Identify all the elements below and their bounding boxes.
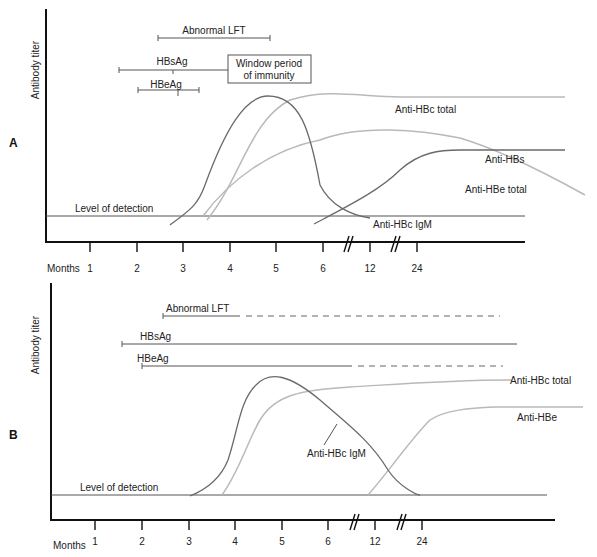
panel-a-y-axis-label: Antibody titer (30, 40, 41, 99)
panel-a-label: A (9, 136, 18, 150)
svg-text:Abnormal LFT: Abnormal LFT (182, 25, 245, 36)
panel-a-curve-labels: Anti-HBc total Anti-HBs Anti-HBe total A… (373, 104, 527, 230)
svg-text:1: 1 (87, 263, 93, 274)
panel-a-x-axis-label: Months (47, 263, 80, 274)
panel-b-anti-hbc-total-curve (222, 380, 512, 495)
svg-text:5: 5 (273, 263, 279, 274)
svg-text:5: 5 (279, 536, 285, 547)
svg-text:HBeAg: HBeAg (150, 79, 182, 90)
svg-text:Anti-HBe total: Anti-HBe total (465, 184, 527, 195)
svg-text:6: 6 (320, 263, 326, 274)
panel-b-hbeag-bar: HBeAg (137, 353, 503, 369)
panel-b-x-ticks (95, 514, 422, 530)
hbv-serology-diagram: A Antibody titer Months 1 2 3 4 5 (0, 0, 597, 557)
svg-text:2: 2 (134, 263, 140, 274)
panel-a: A Antibody titer Months 1 2 3 4 5 (9, 9, 585, 274)
svg-text:of immunity: of immunity (243, 70, 294, 81)
panel-b-y-axis-label: Antibody titer (30, 315, 41, 374)
panel-b-x-axis-label: Months (53, 540, 86, 551)
svg-text:HBeAg: HBeAg (137, 353, 169, 364)
svg-text:12: 12 (369, 536, 381, 547)
svg-text:4: 4 (227, 263, 233, 274)
svg-text:6: 6 (325, 536, 331, 547)
svg-text:Anti-HBc total: Anti-HBc total (510, 375, 571, 386)
panel-a-abnormal-lft-bar: Abnormal LFT (158, 25, 270, 41)
panel-b-igm-leader-line (324, 424, 337, 445)
svg-text:Anti-HBc IgM: Anti-HBc IgM (307, 448, 366, 459)
svg-text:Anti-HBc IgM: Anti-HBc IgM (373, 219, 432, 230)
svg-text:4: 4 (232, 536, 238, 547)
svg-text:3: 3 (180, 263, 186, 274)
svg-text:1: 1 (92, 536, 98, 547)
svg-text:3: 3 (186, 536, 192, 547)
svg-text:Abnormal LFT: Abnormal LFT (166, 303, 229, 314)
panel-a-window-period-box: Window period of immunity (228, 55, 311, 83)
panel-b-label: B (9, 428, 18, 442)
svg-text:Anti-HBs: Anti-HBs (485, 154, 524, 165)
svg-text:HBsAg: HBsAg (140, 331, 171, 342)
panel-a-anti-hbe-total-curve (203, 130, 585, 216)
panel-a-x-ticks (90, 236, 417, 252)
panel-a-detection-label: Level of detection (75, 203, 153, 214)
panel-b-tick-labels: 1 2 3 4 5 6 12 24 (92, 536, 428, 547)
svg-text:24: 24 (411, 263, 423, 274)
svg-text:Window period: Window period (236, 58, 302, 69)
panel-a-tick-labels: 1 2 3 4 5 6 12 24 (87, 263, 423, 274)
panel-b-anti-hbc-igm-curve (190, 377, 420, 496)
svg-text:Anti-HBe: Anti-HBe (517, 412, 557, 423)
svg-text:12: 12 (364, 263, 376, 274)
panel-b-abnormal-lft-bar: Abnormal LFT (163, 303, 500, 319)
panel-a-hbeag-bar: HBeAg (138, 79, 199, 96)
svg-text:2: 2 (139, 536, 145, 547)
panel-a-hbsag-bar: HBsAg (119, 56, 228, 74)
svg-text:24: 24 (416, 536, 428, 547)
svg-text:Anti-HBc total: Anti-HBc total (395, 104, 456, 115)
panel-b-detection-label: Level of detection (80, 482, 158, 493)
panel-b: B Antibody titer Months 1 2 3 4 5 6 12 (9, 283, 583, 551)
svg-text:HBsAg: HBsAg (156, 56, 187, 67)
panel-b-hbsag-bar: HBsAg (122, 331, 517, 347)
